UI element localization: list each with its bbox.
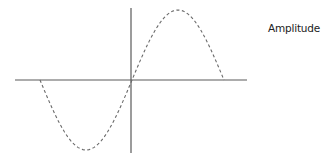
amplitude-label: Amplitude (268, 22, 320, 34)
